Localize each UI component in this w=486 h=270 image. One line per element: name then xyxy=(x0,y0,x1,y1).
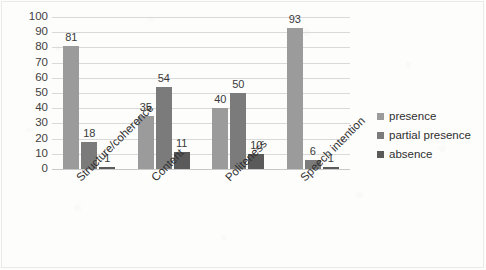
legend-swatch-icon xyxy=(377,113,384,120)
y-tick-label-50: 50 xyxy=(14,87,48,99)
y-tick-label-100: 100 xyxy=(14,11,48,23)
y-tick-label-0: 0 xyxy=(14,163,48,175)
bar-value-label: 18 xyxy=(83,128,95,139)
y-tick-label-80: 80 xyxy=(14,42,48,54)
bar[interactable] xyxy=(212,108,228,169)
bar-value-label: 6 xyxy=(310,146,316,157)
chart-legend: presencepartial presenceabsence xyxy=(377,107,471,164)
y-tick-label-10: 10 xyxy=(14,148,48,160)
y-axis: 0102030405060708090100 xyxy=(10,17,48,169)
bar[interactable] xyxy=(63,46,79,169)
legend-item[interactable]: absence xyxy=(377,145,471,164)
y-tick-label-20: 20 xyxy=(14,133,48,145)
bar[interactable] xyxy=(99,167,115,169)
bar-value-label: 54 xyxy=(158,73,170,84)
bar[interactable] xyxy=(323,167,339,169)
y-tick-label-70: 70 xyxy=(14,57,48,69)
legend-label: absence xyxy=(389,149,432,161)
bar-value-label: 40 xyxy=(214,94,226,105)
plot-area: 811813554114050109361 xyxy=(52,17,350,169)
bar-value-label: 81 xyxy=(65,32,77,43)
legend-label: partial presence xyxy=(389,130,471,142)
bar-group: 355411 xyxy=(127,17,202,169)
bar-value-label: 93 xyxy=(289,14,301,25)
chart-figure: 0102030405060708090100 81181355411405010… xyxy=(0,0,486,270)
legend-swatch-icon xyxy=(377,151,384,158)
legend-item[interactable]: presence xyxy=(377,107,471,126)
legend-item[interactable]: partial presence xyxy=(377,126,471,145)
bar-value-label: 50 xyxy=(232,79,244,90)
legend-label: presence xyxy=(389,111,436,123)
y-tick-label-60: 60 xyxy=(14,72,48,84)
y-tick-label-40: 40 xyxy=(14,102,48,114)
y-tick-label-30: 30 xyxy=(14,118,48,130)
bar[interactable] xyxy=(287,28,303,169)
legend-swatch-icon xyxy=(377,132,384,139)
y-tick-label-90: 90 xyxy=(14,26,48,38)
